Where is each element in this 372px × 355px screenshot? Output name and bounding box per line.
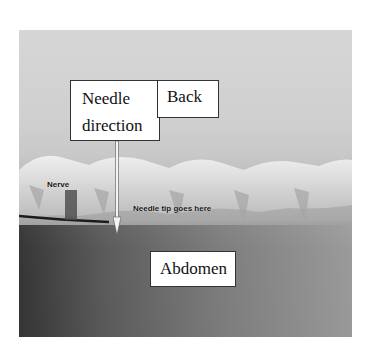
needle-direction-line1: Needle (82, 85, 159, 112)
needle-direction-line2: direction (82, 112, 159, 139)
back-label: Back (157, 80, 219, 118)
needle-tip-annotation: Needle tip goes here (133, 204, 211, 213)
abdomen-label: Abdomen (150, 251, 236, 287)
nerve-annotation: Nerve (47, 180, 69, 189)
needle-direction-label: Needle direction (70, 80, 160, 141)
needle-arrow-icon (113, 141, 121, 235)
